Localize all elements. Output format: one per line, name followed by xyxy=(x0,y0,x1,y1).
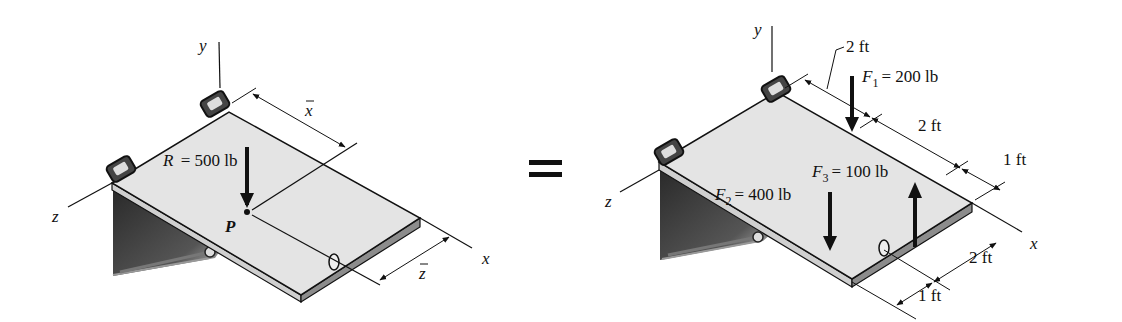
z-axis-label: z xyxy=(604,192,612,211)
x-bar-label: x xyxy=(304,101,314,120)
right-figure: y z x 2 ft 2 ft 1 ft 2 ft 1 ft F1= 200 l… xyxy=(604,20,1038,319)
pin-support xyxy=(879,240,889,256)
y-axis-label: y xyxy=(752,20,762,39)
resultant-label: R = 500 lb xyxy=(162,151,237,170)
svg-text:z: z xyxy=(418,264,426,283)
dim-x-3-label: 1 ft xyxy=(1003,150,1026,169)
dim-x-2-label: 2 ft xyxy=(918,116,941,135)
z-bar-label: z xyxy=(418,264,428,283)
equals-sign xyxy=(529,160,562,177)
dim-z-2-label: 1 ft xyxy=(918,286,941,305)
left-figure: y z x R = 500 lb P x z xyxy=(51,36,490,302)
dim-z-1-label: 2 ft xyxy=(969,248,992,267)
x-axis-label: x xyxy=(481,249,490,268)
x-axis xyxy=(420,218,472,248)
x-axis xyxy=(972,203,1022,232)
z-axis xyxy=(620,170,659,192)
x-axis-label: x xyxy=(1029,234,1038,253)
y-axis-label: y xyxy=(197,36,207,55)
z-axis xyxy=(68,183,112,207)
y-axis xyxy=(219,42,220,88)
force-f1-label: F1= 200 lb xyxy=(861,67,938,90)
point-p-label: P xyxy=(224,217,236,236)
diagram-canvas: y z x R = 500 lb P x z xyxy=(0,0,1122,322)
z-axis-label: z xyxy=(51,207,59,226)
dim-x-1-label: 2 ft xyxy=(846,37,869,56)
point-p xyxy=(244,209,250,215)
svg-text:x: x xyxy=(304,101,313,120)
